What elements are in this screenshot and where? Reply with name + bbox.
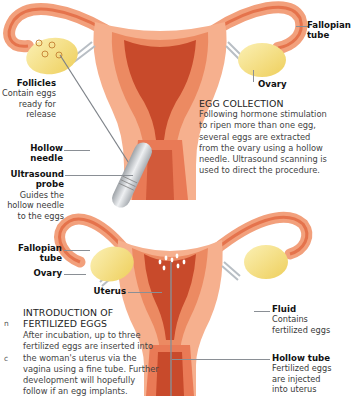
label-desc: release <box>26 109 56 119</box>
edge-text-fragment: c <box>4 354 8 363</box>
label-ovary-top: Ovary <box>258 79 287 89</box>
label-title: probe <box>0 179 64 189</box>
leader-line-hollow-tube <box>172 359 270 360</box>
body-line: Following hormone stimulation <box>199 109 327 120</box>
label-uterus: Uterus <box>70 286 126 296</box>
edge-text-fragment: n <box>4 319 9 328</box>
body-line: development will hopefully <box>23 375 159 386</box>
body-line: vagina using a fine tube. Further <box>23 364 159 375</box>
label-title: tube <box>0 253 62 263</box>
label-desc: to the eggs <box>17 211 64 221</box>
introduction-body: After incubation, up to three fertilized… <box>23 330 159 396</box>
label-title: Fluid <box>272 304 330 314</box>
label-desc: ready for <box>19 99 56 109</box>
body-line: fertilized eggs are inserted into <box>23 341 159 352</box>
leader-line-ovary-bottom <box>64 274 86 275</box>
label-hollow-needle: Hollow needle <box>0 143 63 164</box>
egg-collection-body: Following hormone stimulation to ripen m… <box>199 109 327 177</box>
label-fallopian-tube-bottom: Fallopian tube <box>0 243 62 264</box>
leader-line-ovary-top <box>253 70 254 82</box>
label-ovary-bottom: Ovary <box>0 268 62 278</box>
label-fluid: Fluid Contains fertilized eggs <box>272 304 330 335</box>
leader-line-ultrasound-probe <box>65 175 133 176</box>
label-hollow-tube: Hollow tube Fertilized eggs are injected… <box>272 353 332 395</box>
label-title: Fallopian <box>0 243 62 253</box>
label-fallopian-tube-top: Fallopian tube <box>307 20 351 41</box>
body-line: follow if an egg implants. <box>23 386 159 396</box>
leader-line-fallopian-bottom <box>64 250 90 251</box>
label-desc: are injected <box>272 374 321 384</box>
label-ultrasound-probe: Ultrasound probe Guides the hollow needl… <box>0 169 64 221</box>
label-desc: fertilized eggs <box>272 325 330 335</box>
label-desc: Fertilized eggs <box>272 363 332 373</box>
heading-line: FERTILIZED EGGS <box>23 318 113 329</box>
label-desc: Guides the <box>20 190 64 200</box>
body-line: to ripen more than one egg, <box>199 120 327 131</box>
label-title: needle <box>0 153 63 163</box>
body-line: used to direct the procedure. <box>199 165 327 176</box>
leader-line-uterus <box>128 292 162 293</box>
heading-line: INTRODUCTION OF <box>23 307 113 318</box>
label-desc: into uterus <box>272 384 317 394</box>
label-title: Uterus <box>70 286 126 296</box>
body-line: from the ovary using a hollow <box>199 143 327 154</box>
label-title: Hollow <box>0 143 63 153</box>
body-line: needle. Ultrasound scanning is <box>199 154 327 165</box>
body-line: the woman's uterus via the <box>23 353 159 364</box>
leader-line-hollow-needle <box>64 150 90 151</box>
label-desc: hollow needle <box>7 200 64 210</box>
label-title: Ovary <box>0 268 62 278</box>
label-title: tube <box>307 30 351 40</box>
label-title: Follicles <box>0 78 56 88</box>
label-desc: Contains <box>272 314 308 324</box>
label-title: Ultrasound <box>0 169 64 179</box>
body-line: several eggs are extracted <box>199 132 327 143</box>
label-title: Fallopian <box>307 20 351 30</box>
label-desc: Contain eggs <box>2 88 56 98</box>
label-title: Hollow tube <box>272 353 332 363</box>
label-title: Ovary <box>258 79 287 89</box>
introduction-heading: INTRODUCTION OF FERTILIZED EGGS <box>23 307 113 329</box>
egg-collection-heading: EGG COLLECTION <box>199 98 284 109</box>
leader-line-fluid <box>254 311 270 312</box>
body-line: After incubation, up to three <box>23 330 159 341</box>
label-follicles: Follicles Contain eggs ready for release <box>0 78 56 120</box>
